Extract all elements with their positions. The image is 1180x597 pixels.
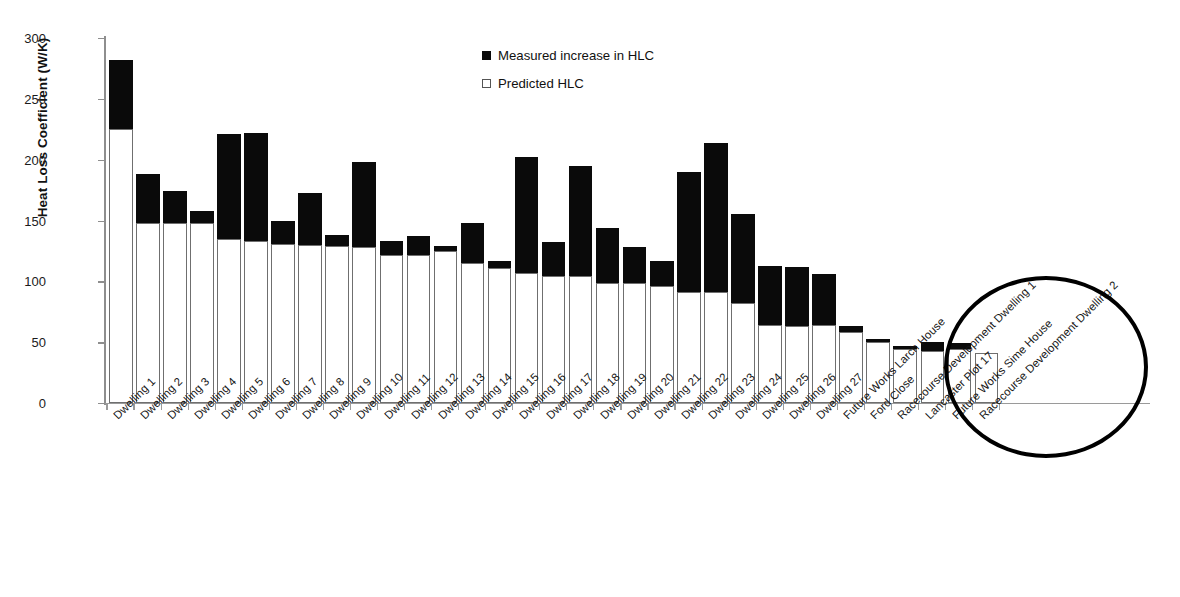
legend-item-predicted: Predicted HLC — [482, 76, 654, 91]
bar-8 — [298, 193, 322, 403]
bar-segment-measured — [461, 223, 485, 263]
bar-segment-measured — [244, 133, 268, 241]
bar-segment-measured — [217, 134, 241, 239]
bar-3 — [163, 191, 187, 403]
bar-segment-measured — [271, 221, 295, 244]
bar-segment-measured — [569, 166, 593, 277]
bar-segment-measured — [731, 214, 755, 303]
bar-segment-measured — [109, 60, 133, 129]
bar-segment-predicted — [109, 129, 133, 403]
legend-item-measured: Measured increase in HLC — [482, 48, 654, 63]
bar-segment-measured — [596, 228, 620, 283]
bar-16 — [515, 157, 539, 403]
y-tick-label: 300 — [0, 31, 46, 46]
bar-segment-measured — [488, 261, 512, 268]
bar-2 — [136, 174, 160, 403]
y-tick-label: 100 — [0, 274, 46, 289]
x-tick-mark — [106, 403, 107, 410]
bar-segment-measured — [677, 172, 701, 292]
chart-root: Heat Loss Coefficient (W/K) 050100150200… — [0, 0, 1180, 597]
y-tick-label: 250 — [0, 91, 46, 106]
legend: Measured increase in HLC Predicted HLC — [482, 48, 654, 104]
open-square-icon — [482, 79, 491, 88]
bar-segment-measured — [785, 267, 809, 327]
bar-segment-measured — [515, 157, 539, 273]
y-tick-label: 50 — [0, 335, 46, 350]
filled-square-icon — [482, 51, 491, 60]
bar-segment-measured — [380, 241, 404, 254]
bar-1 — [109, 60, 133, 403]
bar-segment-measured — [325, 235, 349, 246]
bar-segment-measured — [298, 193, 322, 245]
bar-segment-measured — [407, 236, 431, 254]
y-tick-label: 150 — [0, 213, 46, 228]
bar-18 — [569, 166, 593, 403]
bar-segment-measured — [812, 274, 836, 325]
bar-segment-measured — [623, 247, 647, 282]
bar-segment-measured — [190, 211, 214, 223]
y-tick-label: 200 — [0, 152, 46, 167]
legend-label-predicted: Predicted HLC — [498, 76, 584, 91]
bar-segment-measured — [352, 162, 376, 247]
y-tick-mark — [98, 403, 105, 404]
bar-segment-measured — [866, 339, 890, 343]
bar-segment-measured — [839, 326, 863, 332]
bar-segment-measured — [542, 242, 566, 276]
legend-label-measured: Measured increase in HLC — [498, 48, 654, 63]
y-tick-label: 0 — [0, 396, 46, 411]
bar-22 — [677, 172, 701, 403]
bar-5 — [217, 134, 241, 403]
bar-segment-measured — [163, 191, 187, 223]
bar-segment-measured — [704, 143, 728, 293]
bar-10 — [352, 162, 376, 403]
bar-6 — [244, 133, 268, 403]
bar-segment-measured — [758, 266, 782, 326]
bar-segment-measured — [434, 246, 458, 251]
bar-23 — [704, 143, 728, 403]
bar-segment-measured — [650, 261, 674, 287]
bar-segment-measured — [136, 174, 160, 223]
